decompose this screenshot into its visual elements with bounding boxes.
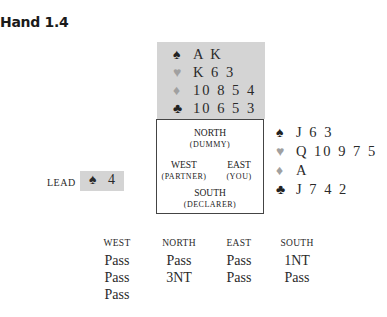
east-diamonds: A (296, 162, 308, 178)
east-diamonds-row: ♦A (276, 162, 308, 180)
bidding-header: EAST (209, 238, 269, 252)
east-spades-row: ♠J 6 3 (276, 124, 333, 142)
club-icon: ♣ (173, 101, 193, 117)
spade-icon: ♠ (276, 125, 296, 141)
bid: 3NT (149, 269, 209, 286)
west-label: WEST (159, 160, 209, 171)
east-spades: J 6 3 (296, 124, 333, 140)
bid: Pass (267, 269, 327, 286)
north-spades-row: ♠A K (173, 46, 223, 64)
heart-icon: ♥ (276, 144, 296, 160)
compass-west: WEST (PARTNER) (159, 160, 209, 182)
hand-title: Hand 1.4 (0, 14, 68, 30)
spade-icon: ♠ (173, 47, 193, 63)
east-hearts-row: ♥Q 10 9 7 5 (276, 143, 377, 161)
bidding-header: SOUTH (267, 238, 327, 252)
bidding-header: NORTH (149, 238, 209, 252)
east-clubs-row: ♣J 7 4 2 (276, 181, 348, 199)
lead-card-rank: 4 (108, 172, 115, 188)
north-clubs-row: ♣10 6 5 3 (173, 100, 256, 118)
compass-south: SOUTH (DECLARER) (157, 188, 263, 210)
diamond-icon: ♦ (173, 83, 193, 99)
west-role: (PARTNER) (159, 171, 209, 182)
north-hearts-row: ♥K 6 3 (173, 64, 235, 82)
bidding-column-south: SOUTH 1NT Pass (267, 238, 327, 286)
lead-card: ♠ 4 (80, 171, 124, 191)
east-clubs: J 7 4 2 (296, 181, 348, 197)
north-spades: A K (193, 46, 223, 62)
north-diamonds: 10 8 5 4 (193, 82, 256, 98)
heart-icon: ♥ (173, 65, 193, 81)
compass-box: NORTH (DUMMY) WEST (PARTNER) EAST (YOU) … (156, 119, 264, 214)
bid: Pass (209, 252, 269, 269)
bidding-column-east: EAST Pass Pass (209, 238, 269, 286)
bid: Pass (149, 252, 209, 269)
east-hearts: Q 10 9 7 5 (296, 143, 377, 159)
bid: Pass (87, 286, 147, 303)
club-icon: ♣ (276, 182, 296, 198)
north-diamonds-row: ♦10 8 5 4 (173, 82, 256, 100)
south-role: (DECLARER) (157, 199, 263, 210)
east-label: EAST (219, 160, 259, 171)
spade-icon: ♠ (89, 172, 96, 188)
north-label: NORTH (157, 128, 263, 139)
north-hand: ♠A K ♥K 6 3 ♦10 8 5 4 ♣10 6 5 3 (157, 42, 265, 119)
diamond-icon: ♦ (276, 163, 296, 179)
bid: Pass (87, 269, 147, 286)
bidding-column-north: NORTH Pass 3NT (149, 238, 209, 286)
compass-east: EAST (YOU) (219, 160, 259, 182)
compass-north: NORTH (DUMMY) (157, 128, 263, 150)
bid: Pass (209, 269, 269, 286)
south-label: SOUTH (157, 188, 263, 199)
east-role: (YOU) (219, 171, 259, 182)
bid: Pass (87, 252, 147, 269)
bidding-column-west: WEST Pass Pass Pass (87, 238, 147, 303)
bidding-header: WEST (87, 238, 147, 252)
north-hearts: K 6 3 (193, 64, 235, 80)
north-role: (DUMMY) (157, 139, 263, 150)
north-clubs: 10 6 5 3 (193, 100, 256, 116)
lead-label: LEAD (47, 177, 76, 188)
bid: 1NT (267, 252, 327, 269)
